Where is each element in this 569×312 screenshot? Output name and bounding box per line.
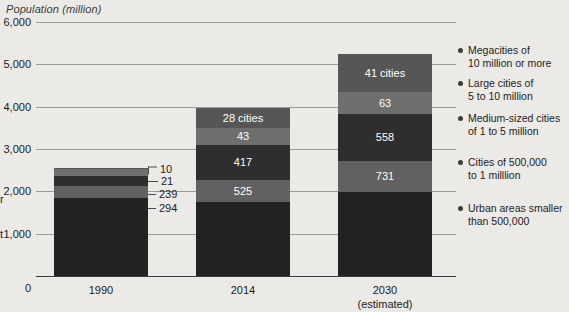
bar-1990-segment-large-cities (54, 169, 148, 176)
callout-1990-cities-500k-1m: 294 (148, 202, 177, 214)
plot-area: 6,000 5,000 4,000 3,000 2,000 1,000 0 10 (36, 22, 456, 276)
bar-2030-segment-large-cities: 63 (338, 92, 432, 114)
bar-2014-segment-urban-small (196, 202, 290, 276)
clipped-text-fragment-1: r (0, 193, 4, 205)
legend-label-megacities: Megacities of 10 million or more (468, 44, 551, 70)
bar-2014-label-cities-500k-1m: 525 (234, 185, 252, 198)
legend-label-urban-small: Urban areas smaller than 500,000 (468, 202, 563, 228)
legend-item-urban-small[interactable]: Urban areas smaller than 500,000 (458, 202, 563, 228)
ytick-5000: 5,000 (3, 58, 31, 70)
bar-2030: 41 cities 63 558 731 (338, 54, 432, 276)
bar-2030-segment-medium-cities: 558 (338, 114, 432, 161)
legend-label-medium-cities: Medium-sized cities of 1 to 5 million (468, 112, 560, 138)
legend-bullet-icon (458, 81, 463, 86)
legend-bullet-icon (458, 160, 463, 165)
ytick-1000: 1,000 (3, 228, 31, 240)
bar-2014-label-medium-cities: 417 (234, 156, 252, 169)
xtick-2030-year: 2030 (338, 284, 432, 298)
ytick-3000: 3,000 (3, 143, 31, 155)
xtick-2030: 2030 (estimated) (338, 284, 432, 312)
axis-line-zero (36, 276, 456, 277)
callout-1990-medium-cities: 239 (148, 188, 177, 200)
legend-bullet-icon (458, 48, 463, 53)
bar-2030-segment-urban-small (338, 192, 432, 276)
xtick-2014: 2014 (196, 284, 290, 298)
chart-axis-title: Population (million) (6, 3, 102, 15)
bar-1990-segment-cities-500k-1m (54, 186, 148, 198)
legend-item-medium-cities[interactable]: Medium-sized cities of 1 to 5 million (458, 112, 560, 138)
bar-2030-segment-cities-500k-1m: 731 (338, 161, 432, 192)
legend-bullet-icon (458, 116, 463, 121)
legend-item-megacities[interactable]: Megacities of 10 million or more (458, 44, 551, 70)
bar-2014-label-large-cities: 43 (237, 130, 249, 143)
legend-label-cities-500k-1m: Cities of 500,000 to 1 milllion (468, 156, 547, 182)
bar-2014: 28 cities 43 417 525 (196, 108, 290, 276)
leader-line (148, 181, 158, 182)
legend-bullet-icon (458, 206, 463, 211)
bar-2014-segment-medium-cities: 417 (196, 145, 290, 180)
bar-2014-segment-megacities: 28 cities (196, 108, 290, 128)
xtick-2030-note: (estimated) (338, 298, 432, 312)
ytick-6000: 6,000 (3, 16, 31, 28)
bar-2030-label-medium-cities: 558 (376, 131, 394, 144)
callout-1990-megacities: 10 (148, 162, 172, 175)
bar-1990 (54, 168, 148, 276)
bar-2030-segment-megacities: 41 cities (338, 54, 432, 92)
bar-2014-segment-large-cities: 43 (196, 128, 290, 145)
bar-2030-label-large-cities: 63 (379, 97, 391, 110)
bar-1990-segment-medium-cities (54, 176, 148, 186)
legend-item-cities-500k-1m[interactable]: Cities of 500,000 to 1 milllion (458, 156, 547, 182)
bar-2030-label-cities-500k-1m: 731 (376, 170, 394, 183)
legend-item-large-cities[interactable]: Large cities of 5 to 10 million (458, 77, 533, 103)
gridline-6000 (36, 22, 456, 23)
legend-label-large-cities: Large cities of 5 to 10 million (468, 77, 533, 103)
leader-line (148, 167, 157, 175)
ytick-4000: 4,000 (3, 101, 31, 113)
leader-line (148, 208, 156, 209)
callout-1990-large-cities: 21 (148, 175, 173, 187)
bar-2030-label-megacities: 41 cities (365, 67, 405, 80)
bar-2014-segment-cities-500k-1m: 525 (196, 180, 290, 202)
bar-2014-label-megacities: 28 cities (223, 112, 263, 125)
bar-1990-segment-urban-small (54, 198, 148, 276)
ytick-2000: 2,000 (3, 185, 31, 197)
ytick-0: 0 (25, 282, 31, 294)
clipped-text-fragment-2: t (0, 228, 3, 240)
leader-line (148, 194, 156, 195)
xtick-1990: 1990 (54, 284, 148, 298)
